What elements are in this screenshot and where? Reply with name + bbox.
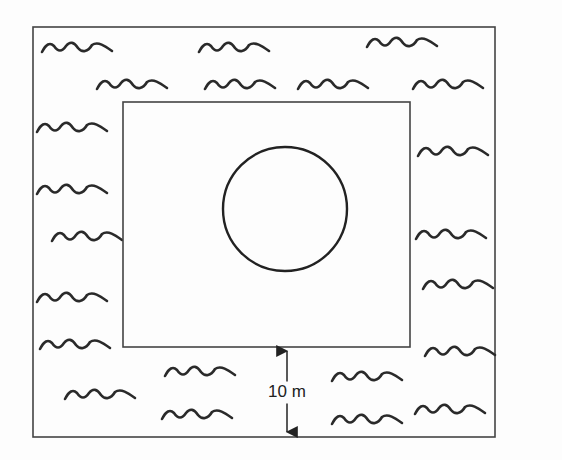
wave-icon — [332, 372, 402, 381]
dimension-label: 10 m — [267, 383, 307, 401]
wave-icon — [416, 230, 486, 239]
wave-icon — [52, 232, 122, 241]
inner-square — [123, 102, 410, 347]
wave-icon — [423, 280, 493, 289]
wave-icon — [37, 185, 107, 194]
wave-icon — [162, 410, 232, 419]
wave-icon — [65, 390, 135, 399]
wave-icon — [42, 43, 112, 52]
wave-icon — [165, 367, 235, 376]
wave-icon — [97, 80, 167, 89]
wave-icon — [40, 340, 110, 349]
wave-icon — [415, 405, 485, 414]
wave-icon — [205, 80, 275, 89]
wave-icon — [413, 80, 483, 89]
wave-icon — [418, 147, 488, 156]
wave-icon — [37, 293, 107, 302]
diagram: 10 m — [0, 0, 562, 460]
wave-icon — [367, 38, 437, 47]
wave-icon — [37, 123, 107, 132]
wave-icon — [199, 43, 269, 52]
wave-icon — [332, 415, 402, 424]
wave-icon — [298, 80, 368, 89]
wave-icon — [425, 347, 495, 356]
